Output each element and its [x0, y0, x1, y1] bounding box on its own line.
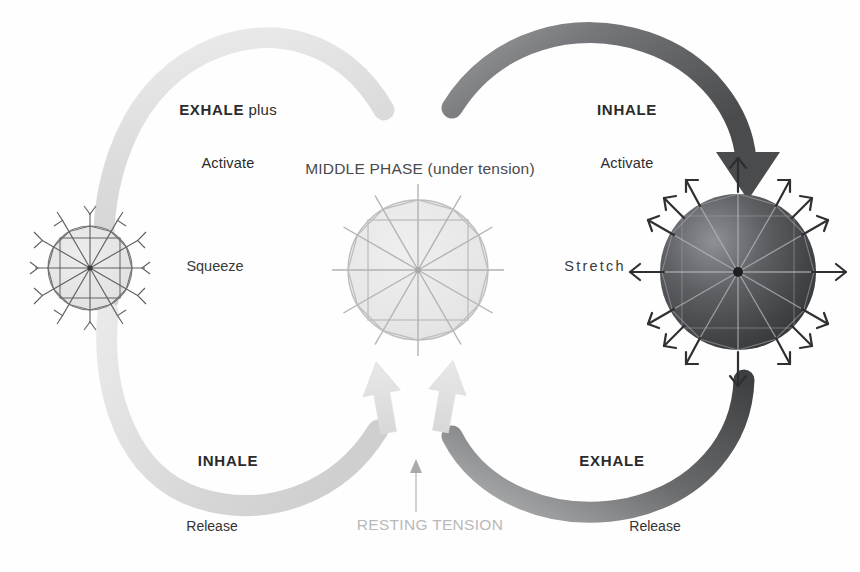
label-release-right: Release: [629, 518, 680, 535]
label-inhale-activate: INHALE Activate: [597, 64, 657, 210]
diagram-vector-layer: [0, 0, 860, 572]
label-stretch: Stretch: [564, 258, 625, 276]
label-activate-left: Activate: [179, 155, 277, 173]
label-plus-word: plus: [244, 101, 277, 118]
resting-tension-arrow: [410, 459, 422, 512]
label-resting-tension: RESTING TENSION: [357, 516, 503, 535]
label-exhale-bottom: EXHALE: [579, 452, 645, 470]
figure-canvas: EXHALE plus Activate INHALE Activate MID…: [0, 0, 860, 572]
label-exhale-plus-activate: EXHALE plus Activate: [179, 64, 277, 210]
expanded-tensegrity-sphere: [630, 158, 846, 386]
label-exhale-plus: EXHALE plus: [179, 101, 277, 119]
arrowhead-into-right-sphere: [716, 152, 780, 200]
label-exhale-word: EXHALE: [179, 101, 244, 118]
label-activate-right: Activate: [597, 155, 657, 173]
neutral-tensegrity-sphere: [332, 184, 504, 356]
label-release-left: Release: [186, 518, 237, 535]
label-inhale-top: INHALE: [597, 101, 657, 119]
label-squeeze: Squeeze: [186, 258, 243, 276]
label-middle-phase: MIDDLE PHASE (under tension): [305, 160, 535, 179]
compressed-tensegrity-sphere: [30, 206, 150, 330]
label-inhale-bottom: INHALE: [198, 452, 259, 470]
